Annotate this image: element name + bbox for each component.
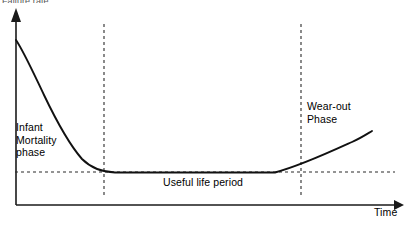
bathtub-curve-figure: Failure rate Infant Mortality phase Usef… [0, 0, 420, 228]
annotation-wear-out-phase: Wear-out Phase [307, 100, 351, 125]
x-axis-label: Time [374, 206, 397, 219]
chart-canvas [0, 0, 420, 228]
y-axis-arrowhead [11, 8, 21, 22]
annotation-useful-life-period: Useful life period [163, 176, 243, 189]
annotation-infant-mortality-phase: Infant Mortality phase [16, 121, 57, 159]
